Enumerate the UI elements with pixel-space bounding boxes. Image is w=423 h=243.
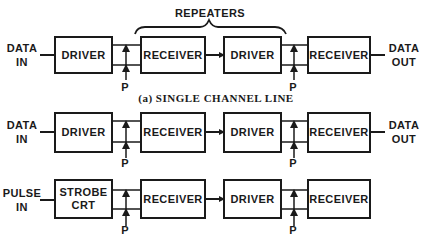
row1-input-line2: IN: [16, 56, 28, 68]
row1-output-line1: DATA: [389, 42, 420, 54]
repeaters-label: REPEATERS: [175, 7, 245, 19]
row3-block-1-label-line2: CRT: [72, 199, 96, 211]
row1-p-label-1: P: [121, 81, 129, 93]
row3-block-2-label: RECEIVER: [143, 193, 202, 205]
row1-block-2-label: RECEIVER: [143, 49, 202, 61]
repeater-diagram: REPEATERS DATA IN DRIVER RECEIVER DRIVER…: [0, 0, 423, 243]
row2-p-label-2: P: [289, 157, 297, 169]
row2-output-line2: OUT: [392, 133, 416, 145]
repeaters-bracket: [135, 20, 286, 34]
row2-input-line2: IN: [16, 133, 28, 145]
row3-block-3-label: DRIVER: [231, 193, 275, 205]
row2-block-4-label: RECEIVER: [309, 126, 368, 138]
row1-input-line1: DATA: [7, 42, 38, 54]
row3-input-line1: PULSE: [3, 187, 42, 199]
row3-block-1-label-line1: STROBE: [59, 186, 107, 198]
row3-input-line2: IN: [16, 201, 28, 213]
row1-block-3-label: DRIVER: [231, 49, 275, 61]
row2-block-2-label: RECEIVER: [143, 126, 202, 138]
row2-block-3-label: DRIVER: [231, 126, 275, 138]
row3-p-label-1: P: [121, 224, 129, 236]
row2-output-line1: DATA: [389, 119, 420, 131]
row2-block-1-label: DRIVER: [62, 126, 106, 138]
row3-block-4-label: RECEIVER: [309, 193, 368, 205]
caption: (a) SINGLE CHANNEL LINE: [138, 92, 293, 105]
row1-block-4-label: RECEIVER: [309, 49, 368, 61]
row3-p-label-2: P: [289, 224, 297, 236]
row1-block-1-label: DRIVER: [62, 49, 106, 61]
row2-p-label-1: P: [121, 157, 129, 169]
row1-output-line2: OUT: [392, 56, 416, 68]
row2-input-line1: DATA: [7, 119, 38, 131]
